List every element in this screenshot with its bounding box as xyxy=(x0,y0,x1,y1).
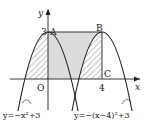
right-parabola-equation: y=−(x−4)²+3 xyxy=(73,111,129,120)
y-axis-arrow-icon xyxy=(46,9,51,15)
left-curve-pointer xyxy=(22,100,31,104)
x-axis-arrow-icon xyxy=(134,77,140,82)
y-axis-label: y xyxy=(37,8,44,18)
point-B-label: B xyxy=(96,23,103,33)
y-tick-3: 3 xyxy=(41,27,47,37)
point-A-label: A xyxy=(49,27,57,37)
x-axis-label: x xyxy=(135,82,140,92)
x-tick-4: 4 xyxy=(99,83,105,93)
origin-label: O xyxy=(37,83,44,93)
point-C-label: C xyxy=(104,69,111,79)
left-parabola-equation: y=−x²+3 xyxy=(2,111,40,120)
hatched-left-region xyxy=(25,32,48,79)
graph-figure: y x O 3 4 A B C y=−x²+3 y=−(x−4)²+3 xyxy=(0,0,148,124)
